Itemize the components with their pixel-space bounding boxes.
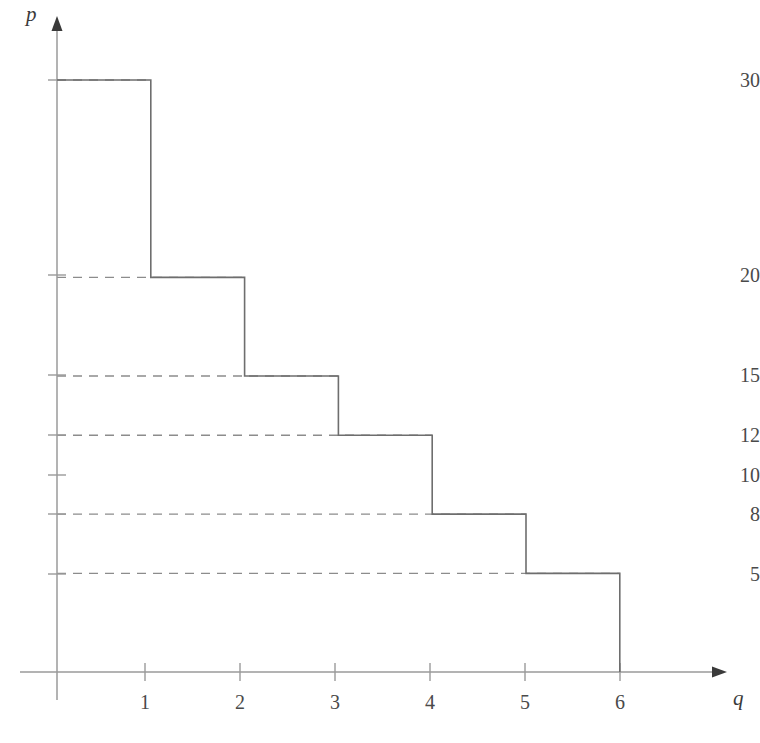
y-tick-label-10: 10 bbox=[720, 464, 760, 487]
y-tick-label-30: 30 bbox=[720, 69, 760, 92]
y-axis-label: p bbox=[26, 2, 37, 27]
x-tick-label-1: 1 bbox=[140, 691, 150, 714]
chart-plot-area bbox=[0, 0, 760, 743]
x-axis-label: q bbox=[733, 686, 744, 711]
x-tick-label-2: 2 bbox=[235, 691, 245, 714]
x-axis bbox=[20, 667, 727, 678]
y-tick-label-5: 5 bbox=[720, 563, 760, 586]
x-tick-label-4: 4 bbox=[425, 691, 435, 714]
y-tick-label-12: 12 bbox=[720, 424, 760, 447]
y-tick-label-20: 20 bbox=[720, 264, 760, 287]
guide-lines bbox=[57, 80, 620, 573]
x-tick-label-3: 3 bbox=[330, 691, 340, 714]
y-tick-label-15: 15 bbox=[720, 364, 760, 387]
step-demand-chart: p q 30 20 15 12 10 8 5 1 2 3 4 5 6 bbox=[0, 0, 760, 743]
y-axis-arrowhead bbox=[52, 16, 63, 31]
y-tick-label-8: 8 bbox=[720, 503, 760, 526]
x-tick-label-5: 5 bbox=[520, 691, 530, 714]
x-axis-arrowhead bbox=[712, 667, 727, 678]
y-axis bbox=[52, 16, 63, 700]
x-tick-label-6: 6 bbox=[615, 691, 625, 714]
